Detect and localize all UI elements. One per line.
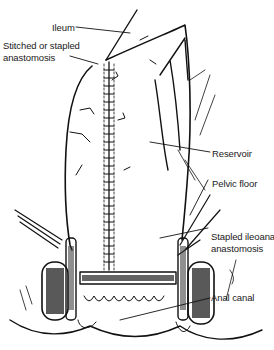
label-anal-canal: Anal canal bbox=[211, 292, 254, 303]
label-stitched-anastomosis-line1: Stitched or stapled bbox=[3, 40, 80, 51]
label-stitched-anastomosis-line2: anastomosis bbox=[3, 52, 55, 63]
label-pelvic-floor: Pelvic floor bbox=[212, 178, 257, 189]
reservoir-outline bbox=[65, 10, 190, 250]
label-stapled-ileoanal-line1: Stapled ileoanal bbox=[211, 231, 274, 242]
pelvic-floor bbox=[15, 195, 220, 324]
mesenteric-vessels bbox=[70, 36, 215, 190]
label-stapled-ileoanal-line2: anastomosis bbox=[211, 243, 263, 254]
pouch-diagram: Ileum Stitched or stapled anastomosis Re… bbox=[0, 0, 274, 350]
staple-line bbox=[104, 62, 114, 270]
label-ileum: Ileum bbox=[52, 22, 75, 33]
label-reservoir: Reservoir bbox=[212, 148, 252, 159]
ileoanal-anastomosis bbox=[80, 272, 176, 301]
